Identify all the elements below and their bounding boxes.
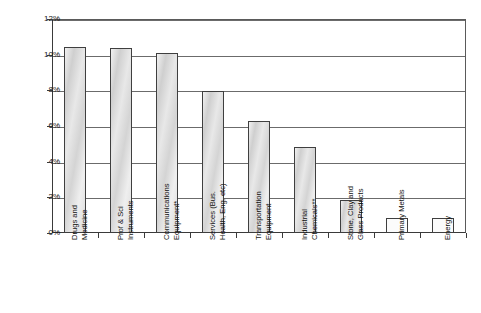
x-tick-label: Prof & Sci Instruments xyxy=(116,160,135,240)
x-tick-mark xyxy=(328,233,329,238)
x-tick-mark xyxy=(374,233,375,238)
x-tick-mark xyxy=(144,233,145,238)
x-tick-mark xyxy=(190,233,191,238)
x-tick-label: Transportation Equipment xyxy=(254,160,273,240)
x-tick-mark xyxy=(282,233,283,238)
x-tick-label: Drugs and Medicine xyxy=(70,160,89,240)
x-tick-label: Industrial Chemicals** xyxy=(300,160,319,240)
x-tick-mark xyxy=(98,233,99,238)
x-tick-mark xyxy=(420,233,421,238)
y-tick-mark xyxy=(47,233,52,234)
x-tick-label: Energy xyxy=(443,160,453,240)
x-tick-mark xyxy=(466,233,467,238)
x-tick-mark xyxy=(236,233,237,238)
x-tick-label: Primary Metals xyxy=(397,160,407,240)
x-tick-label: Communications Equipment* xyxy=(162,160,181,240)
x-tick-label: Services (Bus. Health, Eng. etc) xyxy=(208,160,227,240)
rd-intensity-bar-chart: R&D as % of Net Sales 0%2%4%6%8%10%12% D… xyxy=(0,0,481,313)
x-tick-label: Stone, Clay and Glass Products xyxy=(346,160,365,240)
